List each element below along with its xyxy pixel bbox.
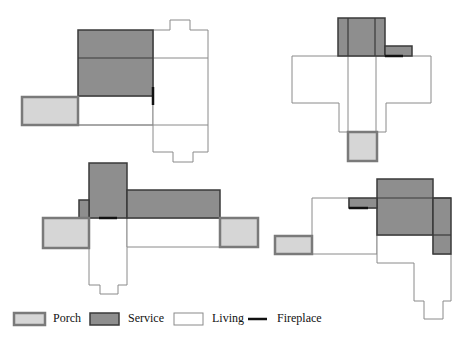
legend-label-service: Service	[128, 311, 164, 326]
service-area	[89, 163, 127, 218]
plan-top-left	[22, 20, 208, 162]
plan-top-right	[292, 18, 431, 161]
living-area	[292, 56, 431, 132]
service-area	[338, 18, 385, 56]
living-area	[127, 218, 220, 247]
living-area	[89, 218, 127, 294]
porch-area	[348, 132, 377, 161]
service-area	[349, 198, 377, 208]
service-area	[79, 200, 89, 218]
legend-label-porch: Porch	[53, 311, 81, 326]
porch-area	[43, 218, 89, 248]
service-area	[433, 198, 451, 254]
legend-label-fireplace: Fireplace	[277, 311, 322, 326]
legend-swatch-porch	[14, 313, 45, 325]
porch-area	[220, 218, 258, 247]
porch-area	[22, 97, 78, 125]
legend-swatch-living	[174, 313, 203, 325]
plan-bottom-left	[43, 163, 258, 294]
service-area	[385, 46, 412, 56]
legend-swatch-service	[90, 313, 119, 325]
porch-area	[275, 236, 312, 254]
living-area	[78, 96, 153, 125]
service-area	[78, 30, 153, 96]
living-area	[153, 20, 208, 162]
plan-bottom-right	[275, 179, 451, 319]
service-area	[127, 190, 220, 218]
floor-plan-diagram	[0, 0, 465, 339]
service-area	[377, 179, 433, 235]
legend-label-living: Living	[212, 311, 244, 326]
